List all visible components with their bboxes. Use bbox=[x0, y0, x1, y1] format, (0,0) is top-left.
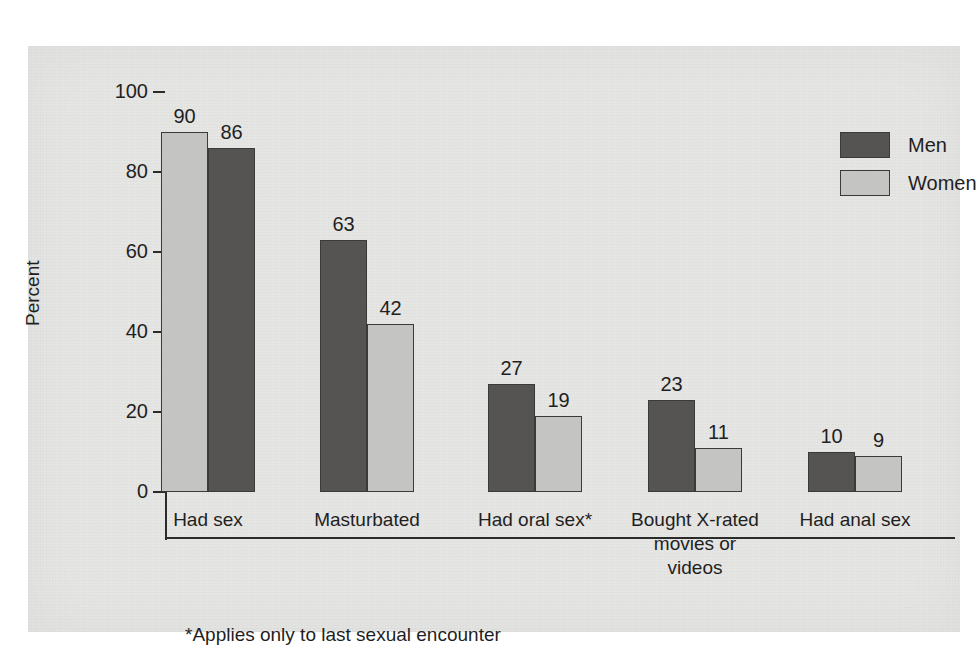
x-axis-line bbox=[165, 537, 955, 539]
bar-men[interactable] bbox=[648, 400, 695, 492]
y-axis-tick-label: 80 bbox=[96, 161, 148, 181]
legend-label: Men bbox=[908, 134, 947, 157]
bar-value-label: 23 bbox=[634, 374, 709, 394]
bar-men[interactable] bbox=[320, 240, 367, 492]
y-axis-title: Percent bbox=[22, 261, 44, 326]
legend-item-men[interactable]: Men bbox=[840, 126, 977, 164]
legend-swatch-icon bbox=[840, 170, 890, 196]
y-axis-tick-label: 100 bbox=[96, 81, 148, 101]
bar-women[interactable] bbox=[535, 416, 582, 492]
bar-men[interactable] bbox=[208, 148, 255, 492]
y-axis-tick-label: 20 bbox=[96, 401, 148, 421]
chart-panel: 100806040200 Percent 9086634227192311109… bbox=[28, 46, 960, 632]
bar-women[interactable] bbox=[695, 448, 742, 492]
bar-women[interactable] bbox=[161, 132, 208, 492]
bar-value-label: 63 bbox=[306, 214, 381, 234]
bar-value-label: 42 bbox=[353, 298, 428, 318]
bar-men[interactable] bbox=[808, 452, 855, 492]
chart-legend: MenWomen bbox=[840, 126, 977, 202]
bar-value-label: 19 bbox=[521, 390, 596, 410]
bar-value-label: 86 bbox=[194, 122, 269, 142]
y-axis-tick-label: 60 bbox=[96, 241, 148, 261]
legend-label: Women bbox=[908, 172, 977, 195]
legend-item-women[interactable]: Women bbox=[840, 164, 977, 202]
x-axis-group-label: Had anal sex bbox=[760, 508, 950, 532]
y-axis-tick bbox=[153, 91, 165, 93]
chart-figure: 100806040200 Percent 9086634227192311109… bbox=[0, 0, 980, 663]
y-axis-tick-label: 0 bbox=[96, 481, 148, 501]
bar-value-label: 27 bbox=[474, 358, 549, 378]
bar-women[interactable] bbox=[855, 456, 902, 492]
x-axis-group-label: Masturbated bbox=[272, 508, 462, 532]
y-axis-tick-labels: 100806040200 bbox=[86, 46, 148, 646]
legend-swatch-icon bbox=[840, 132, 890, 158]
y-axis-tick-label: 40 bbox=[96, 321, 148, 341]
bar-value-label: 11 bbox=[681, 422, 756, 442]
bar-value-label: 9 bbox=[841, 430, 916, 450]
bar-women[interactable] bbox=[367, 324, 414, 492]
chart-footnote: *Applies only to last sexual encounter bbox=[185, 624, 501, 646]
